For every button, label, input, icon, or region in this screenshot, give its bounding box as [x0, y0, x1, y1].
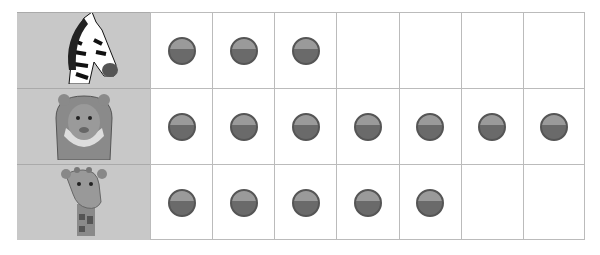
- lion-picture: [17, 88, 150, 164]
- grid-cell[interactable]: [274, 164, 336, 240]
- counter-dot-icon: [230, 37, 258, 65]
- grid-cell[interactable]: [461, 88, 523, 164]
- grid-cell[interactable]: [523, 12, 585, 88]
- grid-cell[interactable]: [399, 164, 461, 240]
- lion-icon: [44, 88, 124, 164]
- counter-dot-icon: [478, 113, 506, 141]
- counter-dot-icon: [292, 113, 320, 141]
- grid-cell[interactable]: [399, 88, 461, 164]
- counter-dot-icon: [354, 113, 382, 141]
- zebra-icon: [44, 12, 124, 88]
- counter-dot-icon: [168, 189, 196, 217]
- grid-cell[interactable]: [336, 88, 398, 164]
- grid-cell[interactable]: [336, 164, 398, 240]
- grid-cell[interactable]: [523, 164, 585, 240]
- zebra-picture: [17, 12, 150, 88]
- counter-dot-icon: [354, 189, 382, 217]
- grid-cell[interactable]: [212, 88, 274, 164]
- grid-cell[interactable]: [523, 88, 585, 164]
- giraffe-picture: [17, 164, 150, 240]
- counter-dot-icon: [292, 189, 320, 217]
- counter-dot-icon: [230, 189, 258, 217]
- grid-cell[interactable]: [461, 12, 523, 88]
- counter-dot-icon: [416, 113, 444, 141]
- grid-cell[interactable]: [274, 12, 336, 88]
- giraffe-icon: [49, 164, 119, 240]
- counter-dot-icon: [292, 37, 320, 65]
- counter-dot-icon: [230, 113, 258, 141]
- grid-cell[interactable]: [274, 88, 336, 164]
- counter-dot-icon: [540, 113, 568, 141]
- grid-cell[interactable]: [150, 164, 212, 240]
- grid-cell[interactable]: [461, 164, 523, 240]
- grid-cell[interactable]: [150, 12, 212, 88]
- grid-cell[interactable]: [212, 12, 274, 88]
- grid-cell[interactable]: [336, 12, 398, 88]
- counter-dot-icon: [416, 189, 444, 217]
- counter-dot-icon: [168, 113, 196, 141]
- grid-cell[interactable]: [150, 88, 212, 164]
- counting-grid: [17, 12, 585, 240]
- grid-cell[interactable]: [212, 164, 274, 240]
- counter-dot-icon: [168, 37, 196, 65]
- grid-cell[interactable]: [399, 12, 461, 88]
